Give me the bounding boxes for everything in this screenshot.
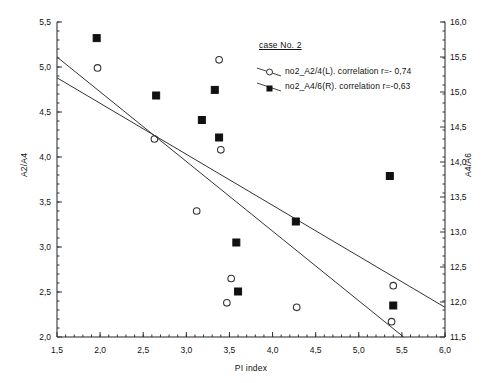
data-point-square xyxy=(390,302,397,309)
y-left-tick-label: 3,5 xyxy=(21,197,51,207)
x-tick-label: 3,0 xyxy=(169,345,203,355)
data-point-circle xyxy=(388,318,395,325)
data-point-square xyxy=(153,92,160,99)
data-point-square xyxy=(386,173,393,180)
x-tick-label: 6,0 xyxy=(428,345,462,355)
regression-lines-group xyxy=(57,57,445,337)
data-point-square xyxy=(93,35,100,42)
data-point-circle xyxy=(228,275,235,282)
x-tick-label: 2,0 xyxy=(83,345,117,355)
data-point-circle xyxy=(293,304,300,311)
y-right-tick-label: 11,5 xyxy=(450,332,484,342)
y-right-tick-label: 13,0 xyxy=(450,227,484,237)
y-right-tick-label: 15,0 xyxy=(450,87,484,97)
x-tick-label: 5,0 xyxy=(342,345,376,355)
data-point-square xyxy=(216,134,223,141)
legend-item-label: no2_A4/6(R). correlation r=-0,63 xyxy=(285,81,410,91)
y-left-tick-label: 5,5 xyxy=(21,17,51,27)
x-tick-label: 4,0 xyxy=(256,345,290,355)
regression-line-1 xyxy=(57,78,445,307)
legend: case No. 2 no2_A2/4(L). correlation r=- … xyxy=(255,40,455,94)
data-point-circle xyxy=(218,147,225,154)
chart-figure: A2/A4 A4/A6 PI index 2,02,53,03,54,04,55… xyxy=(0,0,492,383)
data-point-square xyxy=(198,117,205,124)
y-right-tick-label: 15,5 xyxy=(450,52,484,62)
legend-entries: no2_A2/4(L). correlation r=- 0,74no2_A4/… xyxy=(255,64,455,92)
x-axis-title: PI index xyxy=(196,363,306,373)
data-point-circle xyxy=(94,65,101,72)
data-point-square xyxy=(235,288,242,295)
data-point-circle xyxy=(216,57,223,64)
x-tick-label: 1,5 xyxy=(40,345,74,355)
x-tick-label: 4,5 xyxy=(299,345,333,355)
legend-circle-marker-icon xyxy=(255,64,285,77)
legend-item: no2_A2/4(L). correlation r=- 0,74 xyxy=(255,64,455,77)
data-point-square xyxy=(211,86,218,93)
y-right-tick-label: 13,5 xyxy=(450,192,484,202)
data-point-circle xyxy=(151,136,158,143)
y-left-tick-label: 4,0 xyxy=(21,152,51,162)
data-point-square xyxy=(292,218,299,225)
legend-square-marker-icon xyxy=(255,79,285,92)
y-axis-left-title: A2/A4 xyxy=(19,135,29,195)
y-left-tick-label: 5,0 xyxy=(21,62,51,72)
y-left-tick-label: 4,5 xyxy=(21,107,51,117)
y-right-tick-label: 12,5 xyxy=(450,262,484,272)
legend-item: no2_A4/6(R). correlation r=-0,63 xyxy=(255,79,455,92)
regression-line-2 xyxy=(57,57,404,337)
y-left-tick-label: 2,5 xyxy=(21,287,51,297)
data-point-circle xyxy=(193,208,200,215)
legend-item-label: no2_A2/4(L). correlation r=- 0,74 xyxy=(285,66,411,76)
legend-title: case No. 2 xyxy=(259,40,455,50)
x-tick-label: 2,5 xyxy=(126,345,160,355)
data-point-square xyxy=(233,239,240,246)
y-right-tick-label: 14,0 xyxy=(450,157,484,167)
y-right-tick-label: 12,0 xyxy=(450,297,484,307)
y-right-tick-label: 14,5 xyxy=(450,122,484,132)
x-tick-label: 5,5 xyxy=(385,345,419,355)
y-left-tick-label: 3,0 xyxy=(21,242,51,252)
y-right-tick-label: 16,0 xyxy=(450,17,484,27)
data-point-circle xyxy=(224,300,231,307)
data-point-circle xyxy=(390,282,397,289)
x-tick-label: 3,5 xyxy=(212,345,246,355)
y-left-tick-label: 2,0 xyxy=(21,332,51,342)
